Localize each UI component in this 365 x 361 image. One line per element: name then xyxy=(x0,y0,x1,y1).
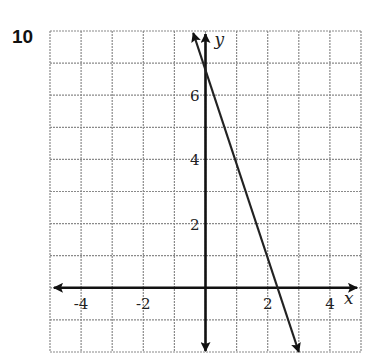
axes: xy xyxy=(54,29,357,351)
y-axis-label: y xyxy=(214,29,225,49)
x-tick-label: -2 xyxy=(136,295,151,313)
y-tick-label: 6 xyxy=(190,87,200,105)
y-tick-label: 4 xyxy=(190,151,200,169)
x-tick-label: -4 xyxy=(74,295,89,313)
x-tick-label: 2 xyxy=(263,295,273,313)
x-tick-label: 4 xyxy=(325,295,335,313)
y-tick-label: 2 xyxy=(190,216,200,234)
plotted-line xyxy=(193,33,299,352)
coordinate-graph: xy -4-224246 xyxy=(0,0,365,361)
x-axis-label: x xyxy=(344,288,354,308)
graph-line xyxy=(193,33,299,352)
